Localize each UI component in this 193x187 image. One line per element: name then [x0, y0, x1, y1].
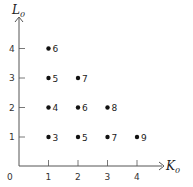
data-point — [76, 105, 80, 109]
data-point-label: 7 — [82, 74, 88, 84]
data-point — [105, 135, 109, 139]
axis-labels: 0 K0 L0 — [7, 3, 180, 182]
origin-label: 0 — [7, 172, 13, 182]
data-points: 6574683579 — [46, 44, 147, 143]
data-point-label: 3 — [53, 133, 59, 143]
data-point — [46, 46, 50, 50]
data-point-label: 6 — [82, 103, 88, 113]
data-point-label: 8 — [112, 103, 118, 113]
x-tick-label: 4 — [134, 172, 140, 182]
data-point-label: 9 — [141, 133, 147, 143]
data-point-label: 7 — [112, 133, 118, 143]
x-axis-title: K0 — [165, 159, 180, 175]
data-point — [46, 135, 50, 139]
data-point — [105, 105, 109, 109]
x-tick-label: 2 — [75, 172, 81, 182]
y-tick-label: 1 — [9, 132, 15, 142]
data-point-label: 5 — [53, 74, 59, 84]
data-point-label: 4 — [53, 103, 59, 113]
y-tick-label: 2 — [9, 103, 15, 113]
data-point-label: 5 — [82, 133, 88, 143]
data-point — [46, 76, 50, 80]
data-point-label: 6 — [53, 44, 59, 54]
scatter-chart: 12341234 6574683579 0 K0 L0 — [0, 0, 193, 187]
y-axis-title: L0 — [11, 3, 25, 19]
data-point — [76, 135, 80, 139]
x-tick-label: 3 — [105, 172, 111, 182]
y-tick-label: 4 — [9, 44, 15, 54]
ticks: 12341234 — [9, 44, 140, 183]
data-point — [76, 76, 80, 80]
y-tick-label: 3 — [9, 73, 15, 83]
axes — [15, 17, 164, 170]
data-point — [46, 105, 50, 109]
x-tick-label: 1 — [46, 172, 52, 182]
data-point — [135, 135, 139, 139]
